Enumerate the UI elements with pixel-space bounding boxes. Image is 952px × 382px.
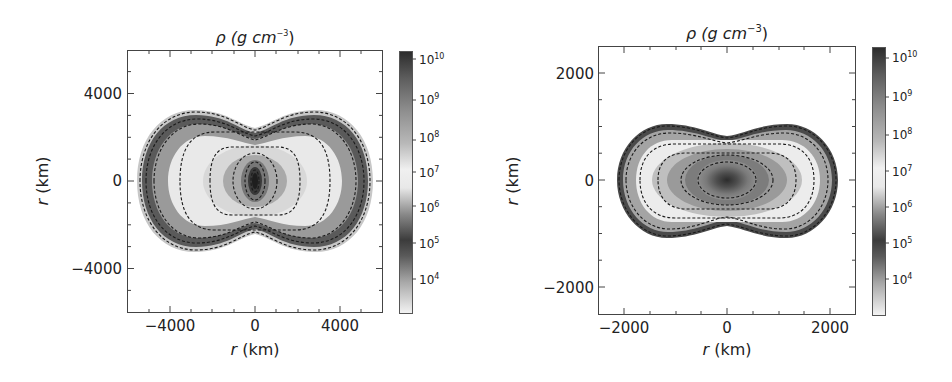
right-xtick-label: −2000 — [599, 319, 650, 337]
right-ytick-label: 2000 — [556, 65, 594, 83]
colorbar-label: 108 — [419, 130, 439, 145]
left-title: ρ (g cm−3) — [215, 28, 294, 47]
left-xlabel: r (km) — [231, 340, 280, 359]
right-xlabel: r (km) — [703, 340, 752, 359]
left-colorbar: 1010 109 108 107 106 105 104 — [400, 52, 445, 314]
left-ytick-label: 4000 — [84, 85, 122, 103]
right-colorbar: 1010 109 108 107 106 105 104 — [873, 48, 918, 316]
left-xtick-label: 4000 — [321, 317, 359, 335]
colorbar-label: 105 — [892, 236, 912, 251]
colorbar-label: 106 — [419, 200, 439, 215]
left-xtick-label: 0 — [250, 317, 260, 335]
left-ylabel: r (km) — [33, 157, 52, 206]
right-title: ρ (g cm−3) — [686, 23, 768, 43]
colorbar-label: 1010 — [419, 52, 444, 67]
colorbar-label: 109 — [892, 89, 912, 104]
right-ylabel: r (km) — [503, 157, 522, 206]
colorbar-label: 104 — [892, 272, 912, 287]
right-panel: ρ (g cm−3) — [503, 23, 917, 359]
colorbar-label: 106 — [892, 200, 912, 215]
left-ytick-label: −4000 — [71, 260, 122, 278]
left-density-map — [137, 110, 373, 252]
left-ytick-label: 0 — [112, 172, 122, 190]
colorbar-label: 1010 — [892, 50, 917, 65]
colorbar-label: 108 — [892, 127, 912, 142]
right-ytick-label: 0 — [584, 172, 594, 190]
right-density-map — [617, 124, 838, 238]
colorbar-label: 109 — [419, 92, 439, 107]
right-xtick-label: 2000 — [811, 319, 849, 337]
colorbar-label: 107 — [419, 165, 439, 180]
colorbar-label: 107 — [892, 164, 912, 179]
figure: ρ (g cm−3) — [0, 0, 952, 382]
left-panel: ρ (g cm−3) — [33, 28, 444, 359]
right-ytick-label: −2000 — [543, 279, 594, 297]
colorbar-label: 105 — [419, 236, 439, 251]
left-xtick-label: −4000 — [145, 317, 196, 335]
colorbar-label: 104 — [419, 272, 439, 287]
right-xtick-label: 0 — [722, 319, 732, 337]
